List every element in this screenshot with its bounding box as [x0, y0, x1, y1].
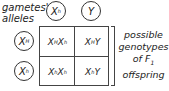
gametes-label-line2: alleles: [2, 13, 34, 24]
genotype-cell: XHY: [75, 27, 110, 57]
offspring-label-line3: of F1: [118, 53, 169, 69]
offspring-label-line4: offspring: [118, 69, 169, 81]
offspring-label: possible genotypes of F1 offspring: [118, 29, 169, 81]
genotype-cell: XhY: [75, 57, 110, 87]
left-allele-2: Xh: [14, 61, 34, 81]
left-allele-1: XH: [14, 31, 34, 51]
allele-base: X: [51, 6, 58, 17]
genotype-cell: XHXh: [40, 27, 75, 57]
allele-sup: H: [26, 38, 30, 44]
gametes-label-line1: gametes': [2, 2, 48, 13]
offspring-label-line2: genotypes: [118, 41, 169, 53]
allele-sup: h: [26, 68, 29, 74]
allele-base: X: [19, 36, 26, 47]
offspring-label-line1: possible: [118, 29, 169, 41]
allele-sup: h: [58, 8, 61, 14]
allele-base: Y: [88, 6, 94, 17]
top-allele-1: Xh: [46, 1, 66, 21]
allele-base: X: [19, 66, 26, 77]
top-allele-2: Y: [81, 1, 101, 21]
genotype-cell: XhXh: [40, 57, 75, 87]
offspring-bracket: [111, 26, 115, 86]
punnett-square: XHXh XHY XhXh XhY: [39, 26, 109, 86]
